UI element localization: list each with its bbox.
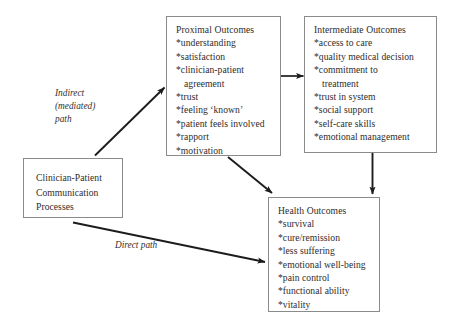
indirect-path-label: Indirect (mediated) path — [55, 87, 95, 125]
proximal-outcomes-item: *clinician-patient — [176, 63, 273, 76]
proximal-outcomes-item: *understanding — [176, 36, 273, 49]
proximal-outcomes-box: Proximal Outcomes *understanding *satisf… — [166, 16, 281, 156]
intermediate-outcomes-item: *quality medical decision — [314, 50, 429, 63]
health-outcomes-box: Health Outcomes *survival *cure/remissio… — [268, 197, 380, 312]
direct-path-label: Direct path — [115, 239, 157, 252]
intermediate-outcomes-item: *commitment to — [314, 63, 429, 76]
direct-path-arrow — [73, 223, 265, 263]
health-outcomes-item: *vitality — [278, 298, 372, 311]
intermediate-outcomes-item: *emotional management — [314, 130, 429, 143]
intermediate-outcomes-item-continued: treatment — [314, 77, 429, 90]
health-outcomes-item: *emotional well-being — [278, 258, 372, 271]
intermediate-outcomes-item: *trust in system — [314, 90, 429, 103]
proximal-outcomes-heading: Proximal Outcomes — [176, 23, 273, 36]
intermediate-outcomes-item: *access to care — [314, 36, 429, 49]
health-outcomes-heading: Health Outcomes — [278, 204, 372, 217]
proximal-to-health-arrow — [228, 157, 272, 193]
health-outcomes-item: *less suffering — [278, 244, 372, 257]
proximal-outcomes-item: *satisfaction — [176, 50, 273, 63]
source-box-line: Clinician-Patient — [36, 171, 116, 186]
health-outcomes-item: *cure/remission — [278, 231, 372, 244]
health-outcomes-item: *functional ability — [278, 284, 372, 297]
proximal-outcomes-item: *motivation — [176, 144, 273, 157]
indirect-path-arrow — [95, 88, 165, 156]
intermediate-outcomes-item: *social support — [314, 103, 429, 116]
health-outcomes-item: *pain control — [278, 271, 372, 284]
diagram-canvas: Proximal Outcomes *understanding *satisf… — [0, 0, 454, 326]
proximal-outcomes-item: *feeling ‘known’ — [176, 103, 273, 116]
intermediate-outcomes-item: *self-care skills — [314, 117, 429, 130]
proximal-outcomes-item: *patient feels involved — [176, 117, 273, 130]
clinician-patient-communication-processes-box: Clinician-Patient Communication Processe… — [23, 158, 123, 218]
source-box-line: Processes — [36, 200, 116, 215]
proximal-outcomes-item: *rapport — [176, 130, 273, 143]
health-outcomes-item: *survival — [278, 217, 372, 230]
source-box-line: Communication — [36, 186, 116, 201]
intermediate-outcomes-box: Intermediate Outcomes *access to care *q… — [304, 16, 437, 153]
proximal-outcomes-item: *trust — [176, 90, 273, 103]
proximal-outcomes-item-continued: agreement — [176, 77, 273, 90]
intermediate-outcomes-heading: Intermediate Outcomes — [314, 23, 429, 36]
